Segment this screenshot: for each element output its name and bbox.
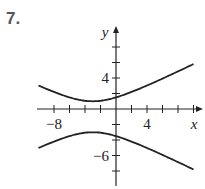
x-axis-arrow-icon [196,106,203,112]
x-tick-label: 4 [143,116,151,132]
hyperbola-graph: −844−6xy [0,0,205,189]
y-tick-label: 4 [102,70,110,86]
y-axis-arrow-icon [113,26,119,33]
x-axis-label: x [190,116,198,132]
x-tick-label: −8 [46,116,62,132]
y-axis-label: y [100,24,109,40]
y-tick-label: −6 [93,148,109,164]
